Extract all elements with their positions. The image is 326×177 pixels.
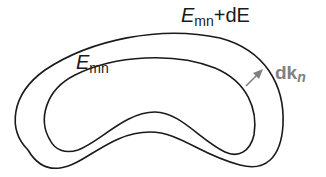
energy-subscript: mn: [194, 13, 213, 29]
energy-subscript: mn: [89, 60, 108, 76]
diagram-svg: [0, 0, 326, 177]
constant-energy-surface-diagram: Emn+dE Emn dkn: [0, 0, 326, 177]
inner-contour-label: Emn: [76, 51, 109, 74]
energy-symbol: E: [76, 51, 89, 73]
dk-label: dkn: [275, 62, 306, 84]
dk-symbol: dk: [275, 62, 297, 83]
dk-arrow: [246, 69, 263, 86]
energy-increment: +dE: [214, 4, 250, 26]
outer-contour-label: Emn+dE: [181, 4, 250, 27]
energy-symbol: E: [181, 4, 194, 26]
dk-subscript: n: [297, 69, 306, 85]
